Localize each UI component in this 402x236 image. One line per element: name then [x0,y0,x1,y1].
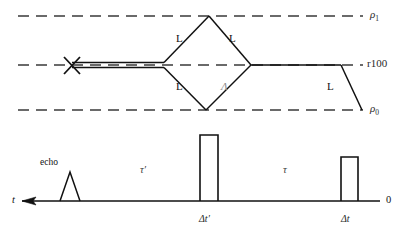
trajectory-group [72,16,362,110]
label-lambda: Λ [221,81,228,92]
time-axis-group [22,197,380,205]
label-tau-prime: τ′ [140,165,146,176]
label-delta-t-prime: Δt′ [199,214,210,224]
label-rho1-sub: 1 [375,14,379,23]
descending-segment-right [341,65,362,110]
diamond-lower-left-edge [164,68,206,111]
label-L-right: L [327,81,334,92]
label-delta-t: Δt [341,214,350,224]
label-r100: r100 [367,58,387,69]
label-time-axis: t [12,195,15,206]
label-L-upper-right: L [229,33,236,44]
label-L-lower-left: L [176,81,183,92]
echo-peak [60,172,80,201]
pulse-sequence-figure: ρ1 r100 ρ0 L L L L Λ t echo τ′ τ Δt′ Δt … [0,0,402,236]
label-tau: τ [283,165,287,176]
pulse-rect-delta-t [341,157,358,201]
label-rho1: ρ1 [370,9,379,23]
label-rho0: ρ0 [370,103,379,117]
pulse-rect-delta-t-prime [200,135,218,201]
diamond-upper-left-edge [164,16,209,63]
label-rho0-sub: 0 [375,108,379,117]
figure-canvas [0,0,402,236]
label-L-upper-left: L [176,33,183,44]
label-axis-origin: 0 [386,195,391,206]
diamond-lower-right-edge [206,65,251,110]
label-echo: echo [40,158,58,168]
